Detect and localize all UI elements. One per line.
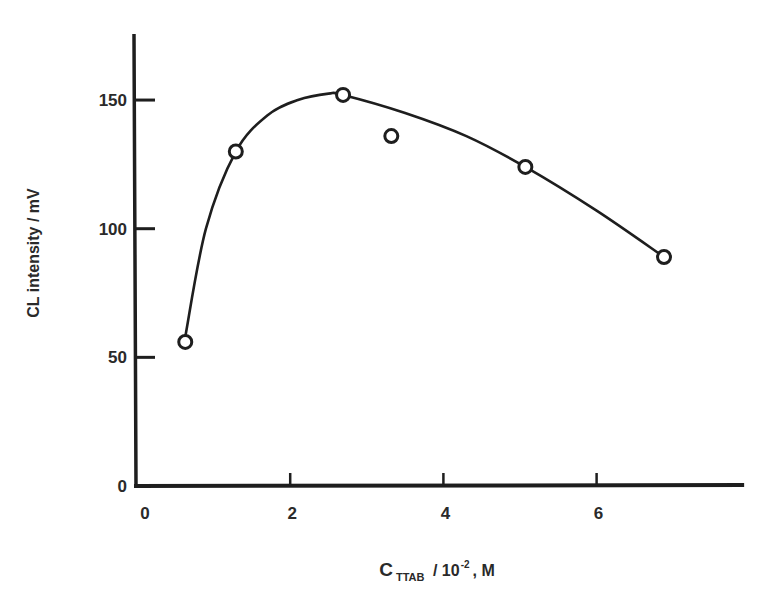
x-axis-label-superscript: -2: [461, 559, 470, 570]
data-point: [229, 145, 242, 158]
data-point: [385, 130, 398, 143]
x-axis-line: [136, 485, 742, 486]
y-tick-label: 0: [118, 477, 127, 496]
y-axis-line: [134, 36, 136, 486]
x-tick-label: 6: [594, 504, 603, 523]
y-axis-label: CL intensity / mV: [25, 188, 42, 318]
chart: 050100150 0246 CL intensity / mV CTTAB /…: [0, 0, 779, 614]
x-axis-label-tail: , M: [473, 562, 495, 579]
y-tick-label: 100: [99, 220, 127, 239]
y-ticks: 050100150: [99, 91, 155, 496]
fitted-curve: [185, 93, 664, 337]
x-axis-label-subscript: TTAB: [396, 571, 425, 583]
x-tick-label: 2: [287, 504, 296, 523]
data-point: [179, 335, 192, 348]
data-point: [337, 88, 350, 101]
axes: [134, 36, 742, 486]
data-point: [658, 251, 671, 264]
x-ticks: 0246: [140, 473, 603, 523]
x-axis-label-mid: / 10: [428, 562, 459, 579]
x-tick-label: 4: [441, 504, 451, 523]
y-tick-label: 150: [99, 91, 127, 110]
data-point: [519, 160, 532, 173]
x-tick-label: 0: [140, 504, 149, 523]
x-axis-label: CTTAB / 10-2, M: [379, 559, 495, 583]
x-axis-label-main: C: [379, 559, 393, 580]
y-tick-label: 50: [108, 348, 127, 367]
